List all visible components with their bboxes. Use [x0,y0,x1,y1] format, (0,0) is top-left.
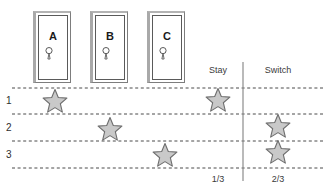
switch-win-star-row2 [266,115,290,138]
monty-hall-figure: ABC 123StaySwitch1/32/3 [0,0,331,196]
row-number-3: 3 [6,150,12,160]
stars-group [43,89,290,167]
stay-win-star-row1 [206,89,230,112]
row-number-1: 1 [6,96,12,106]
prize-star-row1-door-a [43,90,67,113]
switch-probability-total: 2/3 [248,175,308,184]
row-number-2: 2 [6,123,12,133]
stay-probability-total: 1/3 [188,175,248,184]
prize-star-row2-door-b [98,118,122,141]
diagram-graphics-layer [0,0,331,196]
prize-star-row3-door-c [153,144,177,167]
column-header-stay: Stay [188,66,248,75]
switch-win-star-row3 [266,141,290,164]
column-header-switch: Switch [248,66,308,75]
